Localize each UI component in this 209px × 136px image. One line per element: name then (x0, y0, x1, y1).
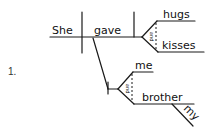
direct-object-word-1: hugs (163, 8, 190, 21)
verb-word: gave (94, 24, 121, 37)
indirect-object-conjunction: and (125, 84, 131, 93)
direct-object-word-2: kisses (162, 39, 196, 52)
modifier-word: my (181, 102, 203, 124)
indirect-object-word-2: brother (142, 91, 183, 104)
sentence-diagram: 1. She gave and hugs kisses and me broth… (0, 0, 209, 136)
subject-word: She (52, 24, 73, 37)
direct-object-conjunction: and (149, 32, 155, 41)
indirect-object-word-1: me (135, 59, 153, 72)
indirect-object-diagonal (93, 38, 108, 89)
problem-number: 1. (8, 66, 16, 77)
